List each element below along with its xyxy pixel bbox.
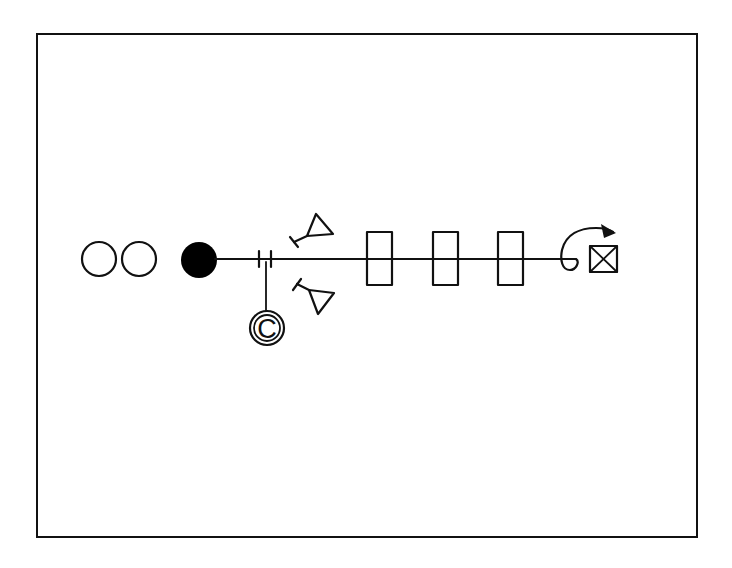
c-label: C <box>257 314 277 344</box>
c-circle-icon: C <box>250 311 284 345</box>
filled-source-icon <box>181 242 217 278</box>
open-circle-icon <box>122 242 156 276</box>
upper-lens-icon <box>290 214 333 247</box>
crossed-box-icon <box>590 246 617 272</box>
beamline-diagram: C <box>0 0 732 568</box>
lower-lens-icon <box>293 279 334 314</box>
open-circle-icon <box>82 242 116 276</box>
